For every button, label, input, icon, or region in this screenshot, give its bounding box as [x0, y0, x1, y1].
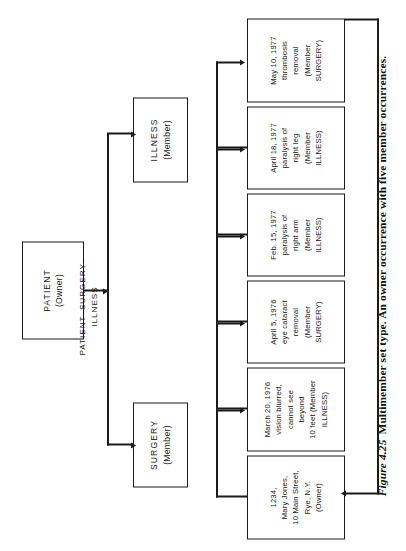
occurrence-box-member-4: April 18, 1977 paralysis of right leg (M… — [247, 106, 345, 189]
rotated-figure-canvas: PATIENT (Owner) SURGERY (Member) ILLNESS… — [0, 0, 406, 551]
figure-number: Figure 4.25 — [376, 439, 388, 496]
schema-box-illness: ILLNESS (Member) — [133, 97, 188, 182]
occurrence-line: Rye, N.Y. — [302, 480, 313, 513]
occurrence-line: March 20, 1976 — [262, 381, 273, 437]
arrowhead-to-surgery-icon — [131, 442, 136, 448]
set-type-label-line1: PATIENT–SURGERY– — [77, 257, 89, 355]
connector-to-surgery — [107, 443, 133, 445]
occurrence-line: SURGERY) — [313, 301, 324, 343]
occurrence-box-member-5: May 10, 1977 thrombosis removal (Member … — [247, 18, 345, 102]
figure-caption-text: Multimember set type. An owner occurrenc… — [376, 55, 388, 434]
arrowhead-return-to-owner-icon — [341, 490, 346, 496]
occurrence-line: April 5, 1976 — [268, 299, 279, 344]
occurrence-line: 10 Main Street, — [290, 470, 301, 525]
schema-box-surgery-name: SURGERY — [148, 419, 160, 469]
occurrence-box-member-3: Feb. 15, 1977 paralysis of right arm (Me… — [247, 193, 345, 276]
occurrence-line: (Member — [302, 306, 313, 338]
occurrence-line: removal — [290, 46, 301, 74]
figure-page: PATIENT (Owner) SURGERY (Member) ILLNESS… — [0, 0, 406, 551]
occurrence-line: vision blurred, — [273, 384, 284, 434]
occurrence-box-member-1: March 20, 1976 vision blurred, cannot se… — [247, 367, 345, 451]
schema-box-patient-name: PATIENT — [41, 269, 53, 312]
connector-to-illness — [107, 132, 133, 134]
occurrence-line: thrombosis — [279, 40, 290, 79]
occurrence-line: paralysis of — [279, 214, 290, 255]
occurrence-line: (Owner) — [313, 483, 324, 512]
occurrence-line: (Member — [302, 219, 313, 251]
occurrence-box-member-2: April 5, 1976 eye cataract removal (Memb… — [247, 280, 345, 363]
connector-schema-bus — [107, 133, 109, 445]
occurrence-line: paralysis of — [279, 127, 290, 168]
occurrence-line: removal — [290, 307, 301, 335]
occurrence-line: SURGERY) — [313, 39, 324, 81]
occurrence-line: (Member — [302, 132, 313, 164]
occurrence-line: Feb. 15, 1977 — [268, 210, 279, 259]
occurrence-line: right arm — [290, 219, 301, 251]
schema-box-patient: PATIENT (Owner) — [22, 241, 84, 339]
occurrence-line: beyond — [296, 396, 307, 422]
schema-box-surgery: SURGERY (Member) — [133, 402, 188, 487]
occurrence-line: eye cataract — [279, 300, 290, 344]
occurrence-line: (Member — [302, 44, 313, 76]
occurrence-line: ILLNESS) — [313, 217, 324, 252]
occurrence-line: 10 feet (Member — [307, 380, 318, 439]
arrowhead-to-illness-icon — [131, 131, 136, 137]
occurrence-line: April 18, 1977 — [268, 123, 279, 173]
schema-box-patient-role: (Owner) — [53, 273, 65, 306]
occurrence-line: cannot see — [285, 389, 296, 428]
occurrence-line: ILLNESS) — [319, 391, 330, 426]
occurrence-box-owner: 1234, Mary Jones, 10 Main Street, Rye, N… — [247, 455, 345, 539]
set-type-label: PATIENT–SURGERY– ILLNESS — [77, 257, 100, 355]
schema-box-surgery-role: (Member) — [161, 425, 173, 465]
schema-box-illness-name: ILLNESS — [148, 118, 160, 161]
figure-caption: Figure 4.25Multimember set type. An owne… — [362, 0, 402, 551]
occurrence-line: Mary Jones, — [279, 475, 290, 519]
diagram-area: PATIENT (Owner) SURGERY (Member) ILLNESS… — [0, 0, 406, 551]
occurrence-line: May 10, 1977 — [268, 36, 279, 84]
set-type-label-line2: ILLNESS — [89, 257, 101, 355]
occurrence-line: 1234, — [268, 487, 279, 507]
occurrence-line: ILLNESS) — [313, 130, 324, 165]
schema-box-illness-role: (Member) — [161, 120, 173, 160]
occurrence-line: right leg — [290, 133, 301, 162]
